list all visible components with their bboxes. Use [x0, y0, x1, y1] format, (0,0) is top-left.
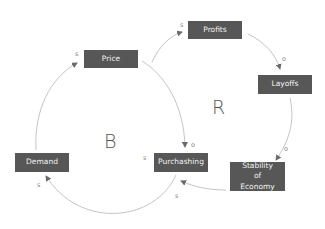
node-profits[interactable]: Profits	[188, 21, 242, 39]
polarity-purchashing-profits: s	[180, 21, 183, 29]
polarity-price-purchashing: o	[191, 141, 195, 149]
edge-purchashing-demand	[46, 175, 176, 213]
node-stability-label: Stability of Economy	[238, 161, 277, 191]
node-layoffs-label: Layoffs	[272, 79, 299, 89]
links-layer	[0, 0, 325, 229]
node-demand[interactable]: Demand	[15, 153, 69, 172]
node-price-label: Price	[102, 54, 120, 64]
loop-label-balancing: B	[104, 130, 116, 152]
node-purchashing[interactable]: Purchashing	[154, 153, 208, 172]
edge-profits-layoffs	[248, 34, 280, 69]
loop-label-reinforcing: R	[212, 96, 225, 118]
polarity-stability-purchashing: s	[175, 192, 178, 200]
node-profits-label: Profits	[203, 25, 226, 35]
polarity-demand-price: s	[75, 50, 78, 58]
edge-demand-price	[36, 63, 77, 150]
node-price[interactable]: Price	[84, 50, 138, 68]
node-layoffs[interactable]: Layoffs	[258, 75, 312, 94]
edge-price-purchashing	[142, 61, 185, 147]
polarity-profits-layoffs: o	[282, 55, 286, 63]
edge-purchashing-profits	[152, 32, 182, 62]
edge-stability-purchashing	[181, 181, 226, 190]
node-demand-label: Demand	[26, 157, 58, 167]
node-purchashing-label: Purchashing	[158, 157, 204, 167]
polarity-purchashing-left: s	[143, 154, 146, 162]
node-stability-of-economy[interactable]: Stability of Economy	[230, 162, 285, 191]
polarity-layoffs-stability: o	[284, 145, 288, 153]
polarity-purchashing-demand: s	[37, 181, 40, 189]
